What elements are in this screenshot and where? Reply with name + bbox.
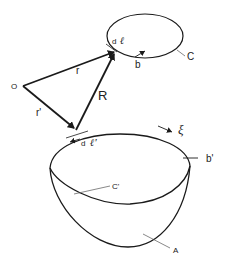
label-r: r: [76, 65, 80, 76]
b-normal-arrow: [135, 51, 145, 57]
vector-R: [76, 54, 114, 130]
label-r-prime: r': [36, 107, 41, 118]
label-dl-d: d: [112, 37, 116, 46]
label-dl-prime-d: d: [81, 139, 85, 148]
surface-a: d ℓ' ξ b' C' A: [50, 122, 214, 255]
label-xi: ξ: [178, 122, 184, 137]
a-pointer: [143, 234, 170, 248]
vector-r-prime: [23, 86, 74, 128]
c-prime-pointer: [74, 186, 110, 194]
rim-back-arc: [50, 134, 190, 168]
diagram-figure: C d ℓ b O r r' R d ℓ' ξ: [0, 0, 231, 260]
label-origin: O: [11, 82, 17, 91]
label-dl-ell: ℓ: [120, 35, 124, 46]
label-b: b: [135, 59, 141, 70]
rim-front-arc: [50, 166, 190, 204]
label-a: A: [173, 246, 179, 255]
loop-c: C d ℓ b: [106, 14, 194, 70]
xi-arrow: [158, 126, 172, 132]
loop-c-pointer: [177, 50, 185, 56]
vectors: O r r' R: [11, 52, 114, 130]
label-c: C: [187, 51, 194, 62]
label-b-prime: b': [206, 153, 214, 164]
label-R: R: [98, 88, 107, 103]
bowl-outline: [50, 166, 190, 247]
label-dl-prime-ell: ℓ': [90, 137, 97, 148]
label-c-prime: C': [112, 182, 120, 191]
dl-prime-tick: [66, 131, 88, 138]
